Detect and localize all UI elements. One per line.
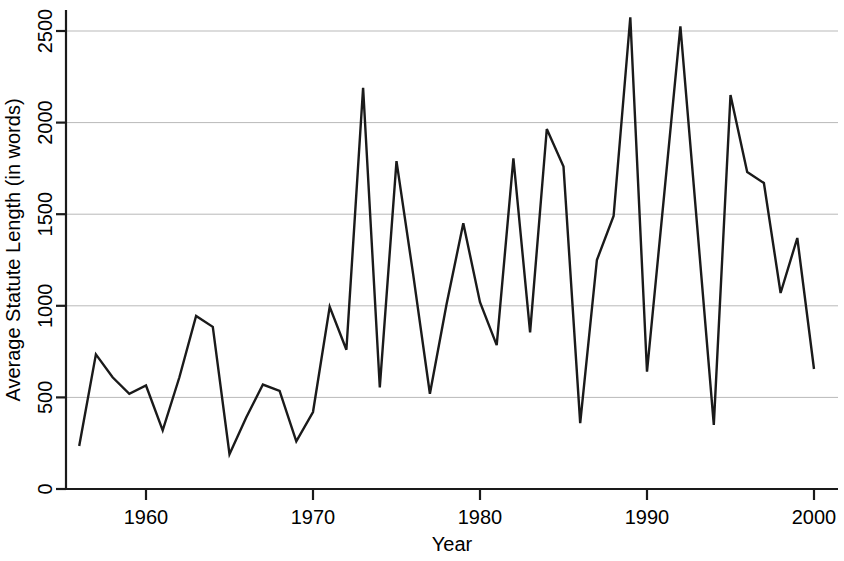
x-tick-label-1980: 1980 — [458, 506, 503, 528]
y-tick-label-0: 0 — [34, 483, 56, 494]
x-axis-title: Year — [432, 533, 473, 555]
y-tick-label-1500: 1500 — [34, 192, 56, 237]
x-tick-label-1990: 1990 — [625, 506, 670, 528]
x-axis-ticks — [146, 489, 814, 500]
y-tick-label-1000: 1000 — [34, 284, 56, 329]
y-axis-title: Average Statute Length (in words) — [2, 98, 24, 401]
x-tick-label-1960: 1960 — [124, 506, 169, 528]
y-tick-label-2000: 2000 — [34, 100, 56, 145]
y-axis-tick-labels: 05001000150020002500 — [34, 9, 56, 495]
y-tick-label-500: 500 — [34, 381, 56, 414]
line-chart: 05001000150020002500 1960197019801990200… — [0, 0, 844, 561]
y-axis-ticks — [56, 31, 66, 489]
x-tick-label-2000: 2000 — [792, 506, 837, 528]
statute-length-series — [79, 17, 814, 454]
chart-figure: 05001000150020002500 1960197019801990200… — [0, 0, 844, 561]
y-tick-label-2500: 2500 — [34, 9, 56, 54]
x-tick-label-1970: 1970 — [291, 506, 336, 528]
x-axis-tick-labels: 19601970198019902000 — [124, 506, 837, 528]
